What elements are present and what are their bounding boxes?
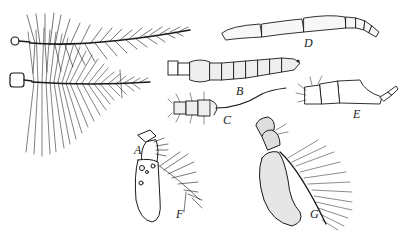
- specimen-a-upper: [11, 13, 190, 73]
- specimen-e: [296, 76, 398, 104]
- label-f: F: [176, 208, 183, 220]
- label-a: A: [134, 144, 141, 156]
- label-b: B: [236, 85, 243, 97]
- figure-drawing: [0, 0, 410, 234]
- antennae-figure: A B C D E F G: [0, 0, 410, 234]
- label-g: G: [310, 208, 319, 220]
- label-e: E: [353, 108, 360, 120]
- label-d: D: [304, 37, 313, 49]
- specimen-d: [222, 16, 379, 40]
- specimen-a-lower: [10, 28, 150, 156]
- specimen-g: [256, 117, 352, 230]
- label-c: C: [223, 114, 231, 126]
- specimen-b: [168, 58, 300, 82]
- specimen-f: [135, 130, 202, 222]
